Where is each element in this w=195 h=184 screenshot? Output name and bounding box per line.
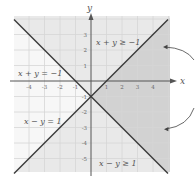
x-tick: -1: [73, 84, 78, 90]
x-axis-arrow-icon: [170, 79, 177, 84]
x-axis-label: x: [180, 76, 185, 86]
y-tick: -2: [82, 109, 87, 115]
y-tick: 3: [84, 32, 88, 38]
x-tick: 2: [120, 84, 124, 90]
label-line2: x − y = 1: [24, 117, 62, 126]
x-tick: -4: [26, 84, 32, 90]
y-tick: 1: [84, 63, 88, 69]
inequality-graph: x y -4 -3 -2 -1 1 2 3 4 3 2 1 -1 -2 -3 -…: [0, 0, 195, 184]
label-line1: x + y = −1: [18, 69, 62, 78]
y-axis-label: y: [86, 3, 93, 13]
label-region1: x + y ≥ −1: [96, 38, 140, 47]
arrow-to-region2-icon: [166, 108, 194, 129]
x-tick: -3: [42, 84, 48, 90]
y-tick-labels: 3 2 1 -1 -2 -3 -4 -5: [82, 32, 88, 162]
y-tick: -4: [82, 140, 88, 146]
x-tick: 3: [136, 84, 140, 90]
y-tick: -1: [82, 94, 87, 100]
y-tick: -3: [82, 125, 88, 131]
x-tick: -2: [57, 84, 62, 90]
x-tick: 4: [151, 84, 155, 90]
x-tick: 1: [105, 84, 109, 90]
y-tick: 2: [84, 47, 88, 53]
y-tick: -5: [82, 156, 88, 162]
label-region2: x − y ≥ 1: [99, 159, 137, 168]
